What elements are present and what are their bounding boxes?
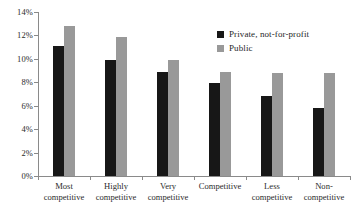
- x-axis-category-label-line: competitive: [142, 192, 194, 203]
- bar[interactable]: [53, 46, 64, 176]
- x-axis-category-label-line: Competitive: [194, 181, 246, 192]
- y-axis-tick-label: 4%: [21, 124, 38, 134]
- x-axis-tick-mark: [350, 176, 351, 180]
- x-axis-category-label: Mostcompetitive: [38, 181, 90, 203]
- x-axis-category-label-line: Very: [142, 181, 194, 192]
- bar-group: [38, 12, 90, 176]
- y-axis-tick-label: 0%: [21, 171, 38, 181]
- x-axis-category-label-line: competitive: [38, 192, 90, 203]
- x-axis-category-label-line: competitive: [90, 192, 142, 203]
- bar[interactable]: [272, 73, 283, 176]
- bar[interactable]: [324, 73, 335, 176]
- bar[interactable]: [168, 60, 179, 176]
- x-axis-category-label-line: competitive: [298, 192, 350, 203]
- y-axis-tick-label: 2%: [21, 148, 38, 158]
- x-axis-tick-mark: [298, 176, 299, 180]
- bar-chart: 14%12%10%8%6%4%2%0% MostcompetitiveHighl…: [0, 0, 358, 211]
- x-axis-tick-mark: [142, 176, 143, 180]
- bar[interactable]: [116, 37, 127, 176]
- y-axis-tick-label: 10%: [17, 54, 38, 64]
- x-axis-tick-mark: [38, 176, 39, 180]
- x-axis-category-label: Verycompetitive: [142, 181, 194, 203]
- bar[interactable]: [261, 96, 272, 176]
- y-axis-tick-label: 6%: [21, 101, 38, 111]
- y-axis-tick-label: 8%: [21, 77, 38, 87]
- x-axis-tick-mark: [246, 176, 247, 180]
- legend-item-private[interactable]: Private, not-for-profit: [217, 28, 309, 40]
- bar[interactable]: [105, 60, 116, 176]
- y-axis-tick-label: 14%: [17, 7, 38, 17]
- bar-group: [90, 12, 142, 176]
- legend-label-private: Private, not-for-profit: [229, 29, 309, 39]
- x-axis-category-label-line: Highly: [90, 181, 142, 192]
- legend-swatch-icon-private: [217, 31, 224, 38]
- legend-swatch-icon-public: [217, 45, 224, 52]
- x-axis-category-label-line: competitive: [246, 192, 298, 203]
- x-axis-category-label: Competitive: [194, 181, 246, 203]
- y-axis-tick-label: 12%: [17, 30, 38, 40]
- x-axis-category-label-line: Less: [246, 181, 298, 192]
- bar-pair: [90, 12, 142, 176]
- x-axis-category-label-line: Non-: [298, 181, 350, 192]
- bar[interactable]: [209, 83, 220, 176]
- bar-pair: [142, 12, 194, 176]
- x-axis-category-label: Highlycompetitive: [90, 181, 142, 203]
- x-axis-tick-mark: [194, 176, 195, 180]
- x-axis-tick-mark: [90, 176, 91, 180]
- bar[interactable]: [64, 26, 75, 176]
- x-axis-category-label: Non-competitive: [298, 181, 350, 203]
- x-axis-category-label: Lesscompetitive: [246, 181, 298, 203]
- bar[interactable]: [220, 72, 231, 176]
- x-axis-category-label-line: Most: [38, 181, 90, 192]
- legend-item-public[interactable]: Public: [217, 42, 309, 54]
- bar-pair: [38, 12, 90, 176]
- x-axis-labels: MostcompetitiveHighlycompetitiveVerycomp…: [38, 181, 350, 203]
- bar[interactable]: [157, 72, 168, 176]
- bar[interactable]: [313, 108, 324, 176]
- legend-label-public: Public: [229, 43, 253, 53]
- legend: Private, not-for-profit Public: [217, 28, 309, 56]
- bar-group: [142, 12, 194, 176]
